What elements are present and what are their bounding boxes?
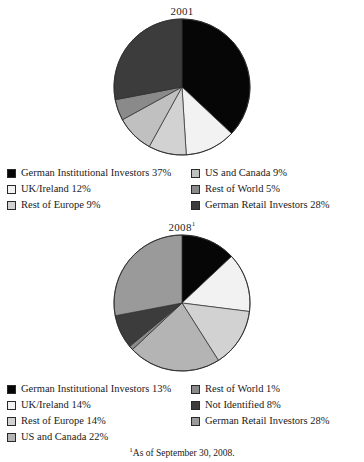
legend-item: Rest of Europe 14%: [7, 413, 191, 429]
pie-slice: [114, 235, 182, 316]
legend-swatch-rest-of-world: [191, 385, 200, 394]
legend-label: US and Canada 9%: [205, 165, 287, 181]
legend-2001-column-right: US and Canada 9% Rest of World 5% German…: [191, 165, 357, 213]
legend-item: US and Canada 22%: [7, 429, 191, 445]
legend-label: Rest of World 5%: [205, 181, 280, 197]
legend-item: Rest of World 5%: [191, 181, 357, 197]
figure-2001: 2001 German Institutional Investors 37% …: [0, 0, 364, 213]
legend-label: US and Canada 22%: [21, 429, 108, 445]
legend-swatch-rest-of-europe: [7, 201, 16, 210]
legend-swatch-rest-of-europe: [7, 417, 16, 426]
legend-2008: German Institutional Investors 13% UK/Ir…: [7, 381, 357, 445]
chart-title-2008-text: 2008: [168, 221, 191, 233]
pie-chart-2001: [107, 17, 257, 157]
legend-swatch-not-identified: [191, 401, 200, 410]
legend-swatch-us-and-canada: [7, 433, 16, 442]
legend-swatch-german-institutional-investors: [7, 385, 16, 394]
legend-2008-column-right: Rest of World 1% Not Identified 8% Germa…: [191, 381, 357, 445]
legend-label: German Retail Investors 28%: [205, 413, 330, 429]
legend-swatch-us-and-canada: [191, 169, 200, 178]
legend-label: UK/Ireland 14%: [21, 397, 91, 413]
legend-item: German Retail Investors 28%: [191, 197, 357, 213]
legend-item: UK/Ireland 14%: [7, 397, 191, 413]
legend-swatch-german-retail-investors: [191, 417, 200, 426]
legend-item: German Institutional Investors 37%: [7, 165, 191, 181]
legend-label: Rest of World 1%: [205, 381, 280, 397]
legend-swatch-german-institutional-investors: [7, 169, 16, 178]
footnote-text: As of September 30, 2008.: [133, 448, 235, 458]
pie-chart-2008-wrap: [0, 233, 364, 373]
legend-label: Not Identified 8%: [205, 397, 281, 413]
pie-slice: [114, 19, 182, 100]
legend-item: Rest of World 1%: [191, 381, 357, 397]
legend-2001-column-left: German Institutional Investors 37% UK/Ir…: [7, 165, 191, 213]
legend-swatch-german-retail-investors: [191, 201, 200, 210]
chart-title-2001: 2001: [0, 6, 364, 17]
legend-2001: German Institutional Investors 37% UK/Ir…: [7, 165, 357, 213]
figure-2008: 20081 German Institutional Investors 13%…: [0, 213, 364, 458]
legend-label: Rest of Europe 14%: [21, 413, 106, 429]
legend-swatch-uk-ireland: [7, 401, 16, 410]
legend-item: Not Identified 8%: [191, 397, 357, 413]
legend-label: UK/Ireland 12%: [21, 181, 91, 197]
legend-item: US and Canada 9%: [191, 165, 357, 181]
chart-title-2001-text: 2001: [170, 5, 193, 17]
legend-item: UK/Ireland 12%: [7, 181, 191, 197]
pie-chart-2001-wrap: [0, 17, 364, 157]
legend-label: German Retail Investors 28%: [205, 197, 330, 213]
footnote: 1As of September 30, 2008.: [0, 448, 364, 458]
legend-item: German Institutional Investors 13%: [7, 381, 191, 397]
legend-swatch-rest-of-world: [191, 185, 200, 194]
chart-title-2008-superscript: 1: [192, 220, 196, 228]
chart-title-2008: 20081: [0, 222, 364, 233]
legend-swatch-uk-ireland: [7, 185, 16, 194]
pie-chart-2008: [107, 233, 257, 373]
legend-label: German Institutional Investors 37%: [21, 165, 171, 181]
legend-item: German Retail Investors 28%: [191, 413, 357, 429]
legend-label: German Institutional Investors 13%: [21, 381, 171, 397]
legend-item: Rest of Europe 9%: [7, 197, 191, 213]
legend-label: Rest of Europe 9%: [21, 197, 101, 213]
legend-2008-column-left: German Institutional Investors 13% UK/Ir…: [7, 381, 191, 445]
